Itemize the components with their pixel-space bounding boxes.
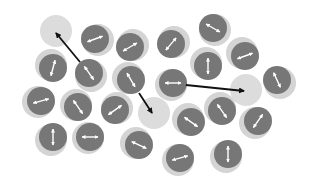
particle — [39, 123, 67, 151]
particle — [263, 66, 291, 94]
particle — [27, 87, 55, 115]
vacancy-site — [40, 15, 72, 47]
particle — [116, 33, 144, 61]
particle — [199, 14, 227, 42]
particle — [81, 25, 109, 53]
particle — [177, 108, 205, 136]
particle — [125, 131, 153, 159]
particle — [231, 42, 259, 70]
particle — [39, 54, 67, 82]
particle — [101, 96, 129, 124]
particle — [166, 144, 194, 172]
particle — [64, 93, 92, 121]
particle — [117, 66, 145, 94]
vacancy-site — [138, 97, 170, 129]
particle-diagram — [0, 0, 312, 185]
particle — [208, 97, 236, 125]
particle — [194, 52, 222, 80]
particle — [214, 140, 242, 168]
particle — [75, 59, 103, 87]
particle — [76, 123, 104, 151]
particle — [159, 69, 187, 97]
diagram-canvas — [0, 0, 312, 185]
particle — [244, 107, 272, 135]
particle — [157, 30, 185, 58]
